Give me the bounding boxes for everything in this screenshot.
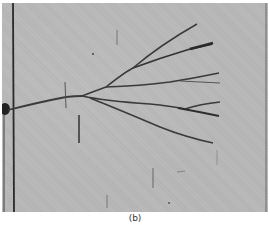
figure-photo [2,3,268,212]
figure-caption: (b) [0,213,270,223]
crack-pattern-graphic [2,3,268,212]
